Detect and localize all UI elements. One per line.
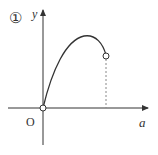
graph-figure: ① y O a bbox=[0, 0, 158, 155]
y-axis-label: y bbox=[31, 7, 38, 21]
curve bbox=[43, 36, 106, 108]
x-axis-label: a bbox=[139, 115, 146, 130]
figure-number-label: ① bbox=[9, 10, 22, 26]
graph-svg: ① y O a bbox=[0, 0, 158, 155]
origin-open-circle bbox=[40, 105, 46, 111]
end-open-circle bbox=[103, 53, 109, 59]
origin-label: O bbox=[26, 115, 35, 129]
